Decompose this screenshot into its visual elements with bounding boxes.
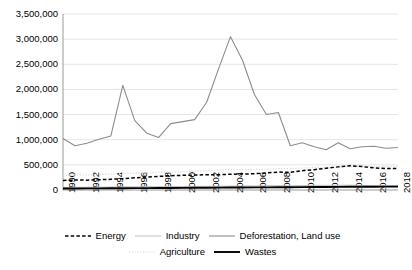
legend-item-deforestation[interactable]: Deforestation, Land use (209, 231, 341, 241)
series-line-energy (63, 166, 398, 181)
chart-legend: EnergyIndustryDeforestation, Land useAgr… (0, 228, 405, 260)
legend-label-industry: Industry (166, 231, 200, 241)
legend-item-energy[interactable]: Energy (65, 231, 126, 241)
series-line-deforestation-land-use (63, 37, 398, 150)
legend-row: EnergyIndustryDeforestation, Land use (0, 228, 405, 244)
legend-label-deforestation: Deforestation, Land use (240, 231, 341, 241)
legend-item-wastes[interactable]: Wastes (214, 247, 276, 257)
legend-swatch-industry (135, 232, 161, 240)
legend-item-industry[interactable]: Industry (135, 231, 200, 241)
legend-label-agriculture: Agriculture (160, 247, 205, 257)
legend-swatch-energy (65, 232, 91, 240)
legend-swatch-agriculture (129, 248, 155, 256)
legend-item-agriculture[interactable]: Agriculture (129, 247, 205, 257)
legend-row: AgricultureWastes (0, 244, 405, 260)
legend-swatch-wastes (214, 248, 240, 256)
legend-swatch-deforestation (209, 232, 235, 240)
legend-label-wastes: Wastes (245, 247, 276, 257)
legend-label-energy: Energy (96, 231, 126, 241)
